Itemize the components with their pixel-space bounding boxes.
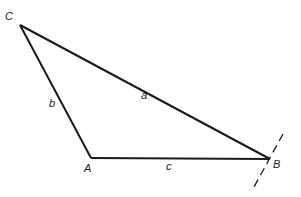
vertex-label-c: C	[5, 10, 13, 22]
side-label-b: b	[49, 97, 55, 109]
vertex-label-a: A	[83, 162, 91, 174]
side-label-a: a	[141, 89, 147, 101]
triangle-diagram: C a b A c B	[0, 0, 301, 197]
vertex-label-b: B	[273, 158, 280, 170]
side-c-line	[91, 158, 270, 159]
side-label-c: c	[166, 160, 172, 172]
